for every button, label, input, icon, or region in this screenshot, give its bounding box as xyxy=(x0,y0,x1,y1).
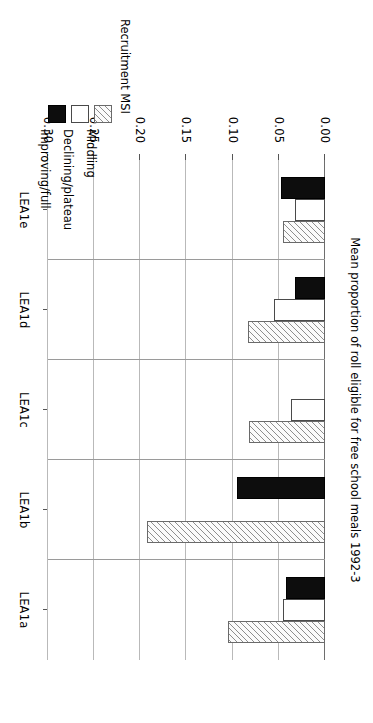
bar-lea1d-middling xyxy=(248,321,325,343)
gridline-category-sep xyxy=(48,459,325,460)
legend-title: Recruitment MSI xyxy=(118,19,132,114)
gridline-category-sep xyxy=(48,359,325,360)
bar-group-lea1a xyxy=(48,577,325,643)
bar-lea1a-middling xyxy=(228,621,325,643)
bar-lea1c-middling xyxy=(249,421,325,443)
bar-lea1c-declining xyxy=(291,399,325,421)
bar-group-lea1c xyxy=(48,377,325,443)
hatched-swatch xyxy=(94,105,112,123)
plot-area xyxy=(48,160,325,660)
bar-lea1d-improving xyxy=(295,277,325,299)
bar-lea1d-declining xyxy=(274,299,325,321)
bar-lea1e-middling xyxy=(283,221,325,243)
gridline-category-sep xyxy=(48,559,325,560)
bar-lea1e-declining xyxy=(295,199,325,221)
chart-figure: Mean proportion of roll eligible for fre… xyxy=(0,0,373,723)
bar-lea1b-improving xyxy=(237,477,325,499)
bar-group-lea1e xyxy=(48,177,325,243)
bar-lea1b-middling xyxy=(147,521,325,543)
bar-lea1e-improving xyxy=(281,177,325,199)
white-swatch xyxy=(71,105,89,123)
bar-group-lea1b xyxy=(48,477,325,543)
gridline-category-sep xyxy=(48,259,325,260)
legend-label: Declining/plateau xyxy=(61,129,75,230)
bar-group-lea1d xyxy=(48,277,325,343)
black-swatch xyxy=(48,105,66,123)
bar-lea1a-improving xyxy=(286,577,325,599)
legend: Recruitment MSI MiddlingDeclining/platea… xyxy=(3,13,138,123)
legend-label: Improving/full xyxy=(38,129,52,209)
legend-label: Middling xyxy=(84,129,98,178)
bar-lea1a-declining xyxy=(283,599,325,621)
